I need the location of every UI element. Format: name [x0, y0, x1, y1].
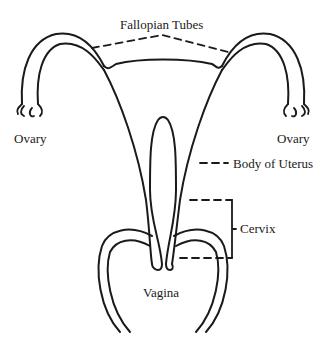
reproductive-anatomy-diagram: Fallopian Tubes Ovary Ovary Body of Uter… [0, 0, 326, 350]
uterus-fundus [104, 60, 222, 69]
label-vagina: Vagina [143, 286, 179, 299]
right-ovary-fimbriae [284, 104, 309, 116]
label-fallopian-tubes: Fallopian Tubes [120, 18, 203, 31]
uterus-body [104, 70, 222, 264]
uterine-cavity [150, 117, 176, 270]
vagina-walls [99, 230, 228, 332]
fallopian-tubes-leader [92, 35, 228, 52]
label-ovary-right: Ovary [277, 132, 310, 145]
left-fallopian-tube [22, 33, 104, 104]
right-fallopian-tube [222, 33, 304, 104]
label-cervix: Cervix [240, 222, 275, 235]
label-ovary-left: Ovary [14, 132, 47, 145]
label-leader-lines [92, 35, 232, 258]
label-body-of-uterus: Body of Uterus [233, 157, 313, 170]
left-ovary-fimbriae [17, 104, 42, 116]
cervix-bracket [230, 200, 236, 258]
